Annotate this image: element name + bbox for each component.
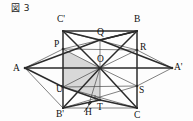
vertex-label-Cp: C' <box>57 14 65 24</box>
vertex-label-B: B <box>134 14 140 24</box>
vertex-dot-T <box>99 99 102 102</box>
vertex-dot-Ap <box>171 67 174 70</box>
vertex-label-O: O <box>97 54 104 64</box>
segment-S-Ap <box>137 68 172 86</box>
geometry-diagram: C'BPQRAA'OUSTHB'C <box>0 0 193 121</box>
vertex-dot-B <box>136 30 138 32</box>
vertex-dot-P <box>62 48 65 51</box>
vertex-label-S: S <box>139 85 144 95</box>
vertex-dot-Q <box>99 39 102 42</box>
segment-O-S <box>100 68 137 86</box>
vertex-dot-Cp <box>62 30 64 32</box>
vertex-label-A: A <box>13 63 20 73</box>
vertex-label-Ap: A' <box>174 62 183 72</box>
vertex-label-Q: Q <box>97 27 104 37</box>
vertex-label-H: H <box>85 107 92 117</box>
vertex-dot-H <box>88 103 90 105</box>
vertex-dot-A <box>24 67 27 70</box>
vertex-label-R: R <box>140 42 147 52</box>
segment-Q-Ap <box>100 40 172 68</box>
vertex-label-Bp: B' <box>56 109 64 119</box>
vertex-label-U: U <box>56 84 63 94</box>
vertex-dot-R <box>136 49 139 52</box>
vertex-label-P: P <box>54 39 59 49</box>
figure-container: 図 3 C'BPQRAA'OUSTHB'C <box>0 0 193 121</box>
vertex-dot-O <box>99 67 102 70</box>
vertex-label-C: C <box>134 110 140 120</box>
vertex-dot-S <box>136 85 139 88</box>
vertex-label-T: T <box>97 102 103 112</box>
vertex-dot-C <box>136 107 138 109</box>
